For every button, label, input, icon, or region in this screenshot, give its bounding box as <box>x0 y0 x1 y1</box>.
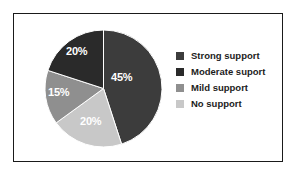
legend-label-moderate-support: Moderate suport <box>191 67 265 77</box>
slice-label-no-support: 20% <box>80 115 101 127</box>
chart-legend: Strong support Moderate suport Mild supp… <box>176 48 276 112</box>
legend-swatch-moderate-support <box>176 68 184 76</box>
legend-item-no-support[interactable]: No support <box>176 96 276 112</box>
legend-item-mild-support[interactable]: Mild support <box>176 80 276 96</box>
legend-label-no-support: No support <box>191 99 242 109</box>
slice-label-mild-support: 15% <box>48 86 69 98</box>
legend-label-mild-support: Mild support <box>191 83 248 93</box>
legend-swatch-strong-support <box>176 52 184 60</box>
pie-chart-figure: 45% 20% 15% 20% Strong support Moderate … <box>0 0 297 175</box>
slice-label-moderate-support: 20% <box>66 45 87 57</box>
chart-plot-area: 45% 20% 15% 20% Strong support Moderate … <box>0 0 297 175</box>
legend-swatch-no-support <box>176 100 184 108</box>
legend-label-strong-support: Strong support <box>191 51 260 61</box>
legend-swatch-mild-support <box>176 84 184 92</box>
legend-item-moderate-support[interactable]: Moderate suport <box>176 64 276 80</box>
legend-item-strong-support[interactable]: Strong support <box>176 48 276 64</box>
slice-label-strong-support: 45% <box>111 71 132 83</box>
